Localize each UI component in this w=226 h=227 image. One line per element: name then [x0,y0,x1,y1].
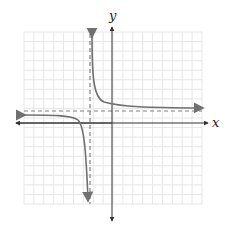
grid [24,32,202,204]
x-axis-label: x [212,115,220,130]
rational-function-graph: y x [0,0,226,227]
y-axis-label: y [108,8,117,23]
right-branch-curve [92,36,202,108]
